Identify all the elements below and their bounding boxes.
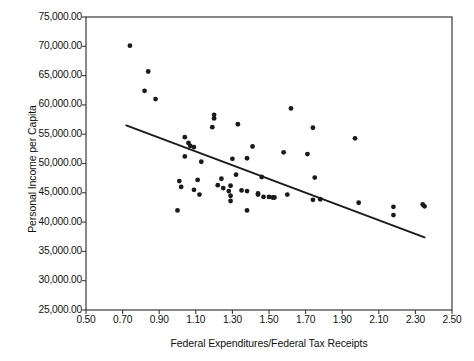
data-point: [312, 175, 317, 180]
data-point: [192, 145, 197, 150]
trendline: [126, 125, 424, 237]
data-point: [219, 176, 224, 181]
data-point: [272, 195, 277, 200]
data-point: [142, 88, 147, 93]
data-point: [311, 197, 316, 202]
data-point: [391, 213, 396, 218]
y-tick-label: 40,000.00: [38, 216, 82, 227]
data-point: [235, 122, 240, 127]
data-point: [192, 187, 197, 192]
data-point: [215, 183, 220, 188]
y-tick-label: 65,000.00: [38, 69, 82, 80]
data-point: [228, 199, 233, 204]
data-point: [356, 200, 361, 205]
plot-frame: [86, 17, 452, 310]
data-point: [210, 125, 215, 130]
scatter-chart: Personal Income per Capita Federal Expen…: [0, 0, 474, 361]
data-point: [226, 189, 231, 194]
data-point: [289, 106, 294, 111]
data-point: [221, 186, 226, 191]
data-point: [245, 156, 250, 161]
data-point: [212, 116, 217, 121]
data-point: [175, 208, 180, 213]
data-point: [177, 179, 182, 184]
data-point: [245, 189, 250, 194]
y-tick-label: 75,000.00: [38, 11, 82, 22]
data-point: [195, 178, 200, 183]
data-point: [353, 136, 358, 141]
data-point: [391, 204, 396, 209]
data-point: [256, 192, 261, 197]
y-tick-label: 55,000.00: [38, 128, 82, 139]
data-point: [245, 208, 250, 213]
y-tick-label: 45,000.00: [38, 186, 82, 197]
y-tick-label: 70,000.00: [38, 40, 82, 51]
data-point: [250, 144, 255, 149]
data-point: [199, 159, 204, 164]
data-point: [281, 150, 286, 155]
x-tick-label: 2.50: [426, 314, 474, 325]
x-axis-title: Federal Expenditures/Federal Tax Receipt…: [86, 337, 452, 349]
y-tick-label: 30,000.00: [38, 274, 82, 285]
data-point: [239, 188, 244, 193]
y-tick-label: 50,000.00: [38, 157, 82, 168]
data-point: [153, 97, 158, 102]
data-point: [228, 183, 233, 188]
data-point: [234, 172, 239, 177]
data-point: [230, 156, 235, 161]
data-point: [261, 195, 266, 200]
data-point: [128, 43, 133, 48]
y-tick-label: 35,000.00: [38, 245, 82, 256]
axes-frame: [86, 17, 452, 310]
data-point: [422, 204, 427, 209]
y-tick-label: 60,000.00: [38, 98, 82, 109]
data-point: [179, 185, 184, 190]
y-tick-label: 25,000.00: [38, 304, 82, 315]
data-point: [197, 192, 202, 197]
data-point: [311, 125, 316, 130]
data-point: [305, 152, 310, 157]
data-point: [146, 69, 151, 74]
data-point-group: [128, 43, 427, 217]
data-point: [228, 193, 233, 198]
data-point: [285, 192, 290, 197]
data-point: [182, 135, 187, 140]
data-point: [182, 154, 187, 159]
